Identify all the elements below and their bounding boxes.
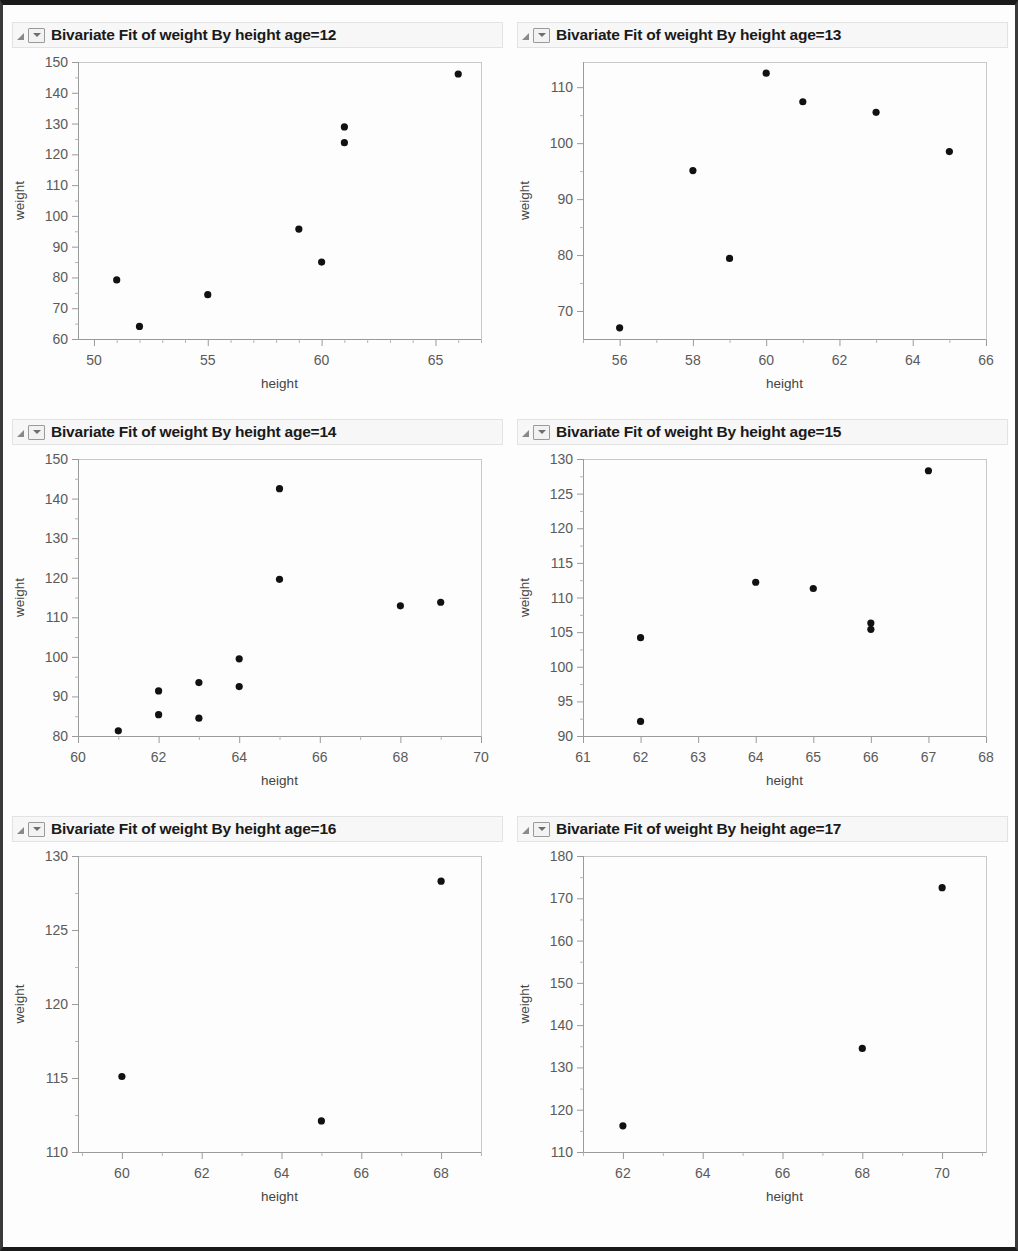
disclosure-triangle-icon[interactable] — [522, 827, 529, 834]
svg-text:65: 65 — [805, 749, 821, 765]
svg-text:130: 130 — [45, 848, 69, 864]
svg-text:120: 120 — [45, 146, 69, 162]
scatter-plot[interactable]: 9095100105110115120125130616263646566676… — [511, 445, 1016, 807]
panel-title-bar[interactable]: Bivariate Fit of weight By height age=17 — [517, 816, 1008, 842]
svg-text:100: 100 — [550, 135, 574, 151]
chevron-down-icon[interactable] — [533, 425, 550, 440]
svg-text:95: 95 — [557, 693, 573, 709]
svg-text:150: 150 — [45, 451, 69, 467]
svg-text:120: 120 — [550, 1102, 574, 1118]
svg-text:110: 110 — [46, 609, 69, 625]
bivariate-panel: Bivariate Fit of weight By height age=14… — [6, 410, 511, 807]
svg-text:100: 100 — [45, 208, 69, 224]
disclosure-triangle-icon[interactable] — [17, 33, 24, 40]
chevron-down-icon[interactable] — [28, 28, 45, 43]
svg-text:66: 66 — [312, 749, 328, 765]
svg-text:130: 130 — [45, 116, 69, 132]
svg-text:125: 125 — [45, 922, 69, 938]
bivariate-panel: Bivariate Fit of weight By height age=12… — [6, 13, 511, 410]
svg-text:120: 120 — [45, 996, 69, 1012]
svg-text:56: 56 — [612, 352, 628, 368]
svg-text:62: 62 — [633, 749, 649, 765]
svg-text:height: height — [766, 376, 803, 391]
plot-canvas: 1101151201251306062646668heightweight — [6, 842, 503, 1214]
disclosure-triangle-icon[interactable] — [17, 430, 24, 437]
scatter-plot[interactable]: 8090100110120130140150606264666870height… — [6, 445, 511, 807]
svg-text:68: 68 — [978, 749, 994, 765]
panel-title-bar[interactable]: Bivariate Fit of weight By height age=15 — [517, 419, 1008, 445]
svg-text:66: 66 — [775, 1165, 791, 1181]
svg-text:90: 90 — [52, 239, 68, 255]
svg-text:66: 66 — [978, 352, 994, 368]
plot-canvas: 708090100110565860626466heightweight — [511, 48, 1008, 401]
svg-text:64: 64 — [274, 1165, 290, 1181]
bivariate-panel: Bivariate Fit of weight By height age=15… — [511, 410, 1016, 807]
svg-text:140: 140 — [45, 491, 69, 507]
svg-text:70: 70 — [52, 300, 68, 316]
plot-canvas: 9095100105110115120125130616263646566676… — [511, 445, 1008, 798]
scatter-plot[interactable]: 6070809010011012013014015050556065height… — [6, 48, 511, 410]
svg-text:50: 50 — [86, 352, 102, 368]
svg-text:63: 63 — [690, 749, 706, 765]
svg-text:60: 60 — [314, 352, 330, 368]
scatter-plot[interactable]: 1101201301401501601701806264666870height… — [511, 842, 1016, 1223]
chevron-down-icon[interactable] — [533, 28, 550, 43]
svg-text:90: 90 — [52, 688, 68, 704]
chevron-down-icon[interactable] — [533, 822, 550, 837]
svg-text:64: 64 — [695, 1165, 711, 1181]
chevron-down-icon[interactable] — [28, 822, 45, 837]
plot-canvas: 1101201301401501601701806264666870height… — [511, 842, 1008, 1214]
svg-text:weight: weight — [12, 984, 27, 1024]
svg-text:67: 67 — [921, 749, 937, 765]
svg-text:62: 62 — [194, 1165, 210, 1181]
svg-text:70: 70 — [934, 1165, 950, 1181]
svg-text:115: 115 — [46, 1070, 69, 1086]
panel-title: Bivariate Fit of weight By height age=17 — [556, 820, 841, 838]
svg-text:105: 105 — [550, 624, 574, 640]
svg-text:90: 90 — [557, 728, 573, 744]
svg-text:64: 64 — [748, 749, 764, 765]
svg-text:110: 110 — [551, 1144, 574, 1160]
svg-text:170: 170 — [550, 890, 574, 906]
disclosure-triangle-icon[interactable] — [17, 827, 24, 834]
svg-text:height: height — [766, 1189, 803, 1204]
svg-text:62: 62 — [832, 352, 848, 368]
svg-text:height: height — [261, 376, 298, 391]
svg-text:120: 120 — [550, 520, 574, 536]
plot-canvas: 6070809010011012013014015050556065height… — [6, 48, 503, 401]
svg-text:80: 80 — [52, 728, 68, 744]
svg-text:height: height — [261, 773, 298, 788]
disclosure-triangle-icon[interactable] — [522, 33, 529, 40]
panel-title: Bivariate Fit of weight By height age=15 — [556, 423, 841, 441]
svg-text:65: 65 — [428, 352, 444, 368]
scatter-plot[interactable]: 708090100110565860626466heightweight — [511, 48, 1016, 410]
bivariate-panel: Bivariate Fit of weight By height age=17… — [511, 807, 1016, 1223]
svg-text:weight: weight — [517, 181, 532, 221]
panel-title: Bivariate Fit of weight By height age=12 — [51, 26, 336, 44]
svg-text:58: 58 — [685, 352, 701, 368]
svg-text:height: height — [261, 1189, 298, 1204]
svg-text:130: 130 — [550, 1059, 574, 1075]
svg-text:68: 68 — [433, 1165, 449, 1181]
svg-text:150: 150 — [45, 54, 69, 70]
disclosure-triangle-icon[interactable] — [522, 430, 529, 437]
chevron-down-icon[interactable] — [28, 425, 45, 440]
report-page: Bivariate Fit of weight By height age=12… — [0, 0, 1018, 1251]
svg-text:weight: weight — [12, 578, 27, 618]
svg-text:66: 66 — [354, 1165, 370, 1181]
svg-text:80: 80 — [557, 247, 573, 263]
bivariate-panel-grid: Bivariate Fit of weight By height age=12… — [6, 13, 1015, 1248]
svg-text:60: 60 — [114, 1165, 130, 1181]
scatter-plot[interactable]: 1101151201251306062646668heightweight — [6, 842, 511, 1223]
svg-text:110: 110 — [551, 79, 574, 95]
panel-title-bar[interactable]: Bivariate Fit of weight By height age=16 — [12, 816, 503, 842]
svg-text:110: 110 — [551, 590, 574, 606]
panel-title-bar[interactable]: Bivariate Fit of weight By height age=14 — [12, 419, 503, 445]
svg-text:150: 150 — [550, 975, 574, 991]
svg-text:weight: weight — [517, 984, 532, 1024]
svg-text:180: 180 — [550, 848, 574, 864]
svg-text:100: 100 — [45, 649, 69, 665]
panel-title-bar[interactable]: Bivariate Fit of weight By height age=12 — [12, 22, 503, 48]
bivariate-panel: Bivariate Fit of weight By height age=13… — [511, 13, 1016, 410]
panel-title-bar[interactable]: Bivariate Fit of weight By height age=13 — [517, 22, 1008, 48]
